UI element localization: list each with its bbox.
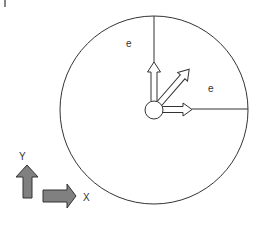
up-vector-arrow-icon xyxy=(148,62,161,101)
right-vector-arrow-icon xyxy=(162,103,192,116)
axis-x-label: X xyxy=(83,192,90,203)
x-axis-arrow-icon xyxy=(43,184,76,208)
y-axis-arrow-icon xyxy=(16,165,38,198)
hub-circle xyxy=(145,101,163,119)
axis-y-label: Y xyxy=(19,151,26,162)
label-e-top: e xyxy=(126,38,132,49)
diagram-canvas: e e Y X xyxy=(0,0,262,225)
label-e-right: e xyxy=(208,83,214,94)
